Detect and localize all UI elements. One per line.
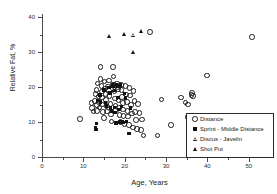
x-tick-label: 0	[32, 163, 52, 169]
data-point	[155, 133, 161, 139]
legend-label: Distance	[200, 116, 223, 123]
legend-marker-icon	[191, 135, 199, 143]
data-point	[131, 33, 135, 37]
x-tick	[125, 158, 126, 162]
legend-label: Shot Put	[200, 146, 223, 153]
x-tick	[207, 158, 208, 162]
data-point	[159, 97, 165, 103]
x-tick-minor	[104, 158, 105, 160]
data-point	[139, 117, 145, 123]
scatter-plot-figure: 010203040 01020304050 Relative Fat, % Ag…	[0, 0, 277, 194]
x-axis-title: Age, Years	[42, 178, 257, 187]
legend-item[interactable]: Sprint - Middle Distance	[187, 124, 273, 134]
x-tick	[166, 158, 167, 162]
y-tick-label: 30	[15, 49, 35, 55]
data-point	[108, 91, 111, 94]
data-point	[185, 102, 191, 108]
x-tick-label: 20	[115, 163, 135, 169]
x-tick-label: 50	[239, 163, 259, 169]
data-point	[105, 104, 108, 107]
x-tick-minor	[187, 158, 188, 160]
x-tick-label: 30	[156, 163, 176, 169]
x-tick-minor	[63, 158, 64, 160]
data-point	[133, 117, 139, 123]
data-point	[111, 74, 117, 80]
data-point	[110, 64, 116, 70]
legend-item[interactable]: Discus - Javelin	[187, 134, 273, 144]
data-point	[123, 92, 126, 95]
y-axis-title: Relative Fat, %	[9, 28, 16, 108]
data-point	[116, 96, 119, 99]
data-point	[131, 50, 135, 54]
legend-marker-icon	[191, 145, 199, 153]
data-point	[131, 88, 137, 94]
data-point	[190, 93, 196, 99]
x-tick	[42, 158, 43, 162]
data-point	[249, 34, 255, 40]
y-tick-label: 20	[15, 84, 35, 90]
legend-item[interactable]: Shot Put	[187, 144, 273, 154]
data-point	[138, 127, 144, 133]
x-tick-label: 10	[73, 163, 93, 169]
legend-label: Discus - Javelin	[200, 136, 242, 143]
x-tick	[83, 158, 84, 162]
legend-label: Sprint - Middle Distance	[200, 126, 264, 133]
x-tick-minor	[228, 158, 229, 160]
data-point	[98, 93, 101, 96]
data-point	[139, 29, 143, 33]
data-point	[95, 122, 98, 125]
data-point	[77, 116, 83, 122]
data-point	[119, 83, 122, 86]
data-point	[135, 101, 141, 107]
chart-legend: DistanceSprint - Middle DistanceDiscus -…	[186, 113, 274, 158]
legend-item[interactable]: Distance	[187, 114, 273, 124]
x-tick-label: 40	[197, 163, 217, 169]
data-point	[113, 106, 116, 109]
data-point	[124, 96, 127, 99]
x-tick	[249, 158, 250, 162]
y-tick-label: 40	[15, 14, 35, 20]
data-point	[99, 100, 102, 103]
legend-marker-icon	[191, 125, 199, 133]
data-point	[137, 110, 143, 116]
data-point	[168, 122, 174, 128]
data-point	[120, 105, 123, 108]
data-point	[204, 73, 210, 79]
data-point	[101, 115, 107, 121]
data-point	[141, 133, 147, 139]
data-point	[178, 95, 184, 101]
data-point	[102, 88, 105, 91]
x-tick-minor	[145, 158, 146, 160]
data-point	[129, 106, 132, 109]
data-point	[125, 120, 128, 123]
y-tick-label: 10	[15, 119, 35, 125]
y-tick-label: 0	[15, 154, 35, 160]
data-point	[107, 34, 111, 38]
data-point	[94, 128, 97, 131]
data-point	[122, 32, 126, 36]
data-point	[98, 64, 104, 70]
data-point	[147, 29, 153, 35]
legend-marker-icon	[191, 115, 199, 123]
data-point	[111, 87, 115, 91]
data-point	[127, 132, 130, 135]
